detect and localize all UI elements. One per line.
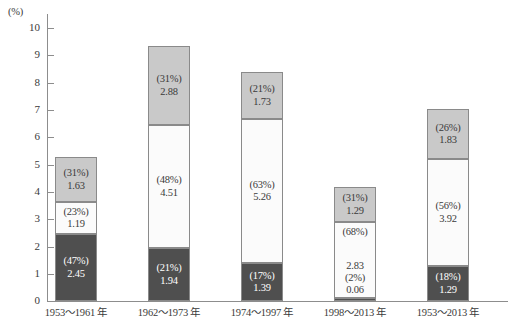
bar-3-middle-segment[interactable]: (63%) 5.26 <box>241 119 283 263</box>
bar-4-top-percent: (31%) <box>342 192 367 205</box>
bar-4-middle-segment[interactable]: (68%) 2.83 <box>334 222 376 298</box>
bar-2-middle-percent: (48%) <box>156 174 181 187</box>
y-tick-label-2: 2 <box>12 241 40 252</box>
y-tick-9 <box>48 55 54 56</box>
y-axis-unit-label: (%) <box>8 6 23 17</box>
bar-2-bottom-segment[interactable]: (21%) 1.94 <box>148 248 190 301</box>
bar-5-top-percent: (26%) <box>435 122 460 135</box>
y-tick-label-9: 9 <box>12 49 40 60</box>
bar-4-middle-percent: (68%) <box>342 226 367 239</box>
y-tick-6 <box>48 137 54 138</box>
bar-1-bottom-value: 2.45 <box>67 268 85 281</box>
y-tick-label-0: 0 <box>12 295 40 306</box>
y-tick-1 <box>48 274 54 275</box>
bar-1-bottom-segment[interactable]: (47%) 2.45 <box>55 234 97 301</box>
bar-5-bottom-segment[interactable]: (18%) 1.29 <box>427 266 469 301</box>
y-tick-label-8: 8 <box>12 77 40 88</box>
bar-1-middle-segment[interactable]: (23%) 1.19 <box>55 202 97 234</box>
bar-3-top-value: 1.73 <box>253 96 271 109</box>
bar-2-bottom-percent: (21%) <box>156 262 181 275</box>
bar-1974-1997[interactable]: (17%) 1.39 (63%) 5.26 (21%) 1.73 <box>241 72 283 301</box>
y-tick-8 <box>48 83 54 84</box>
bar-1998-2013[interactable]: (68%) 2.83 (31%) 1.29 (2%) 0.06 <box>334 187 376 301</box>
bar-3-bottom-segment[interactable]: (17%) 1.39 <box>241 263 283 301</box>
bar-5-bottom-value: 1.29 <box>439 284 457 297</box>
y-tick-label-5: 5 <box>12 159 40 170</box>
bar-4-bottom-segment[interactable] <box>334 298 376 301</box>
y-tick-label-3: 3 <box>12 213 40 224</box>
y-tick-4 <box>48 192 54 193</box>
bar-4-top-segment[interactable]: (31%) 1.29 <box>334 187 376 222</box>
bar-3-bottom-value: 1.39 <box>253 282 271 295</box>
y-tick-label-7: 7 <box>12 104 40 115</box>
x-axis-line <box>47 301 508 302</box>
bar-5-bottom-percent: (18%) <box>435 271 460 284</box>
bar-4-top-value: 1.29 <box>346 205 364 218</box>
y-tick-label-4: 4 <box>12 186 40 197</box>
bar-1-middle-value: 1.19 <box>67 218 85 231</box>
bar-3-top-percent: (21%) <box>249 83 274 96</box>
bar-1953-2013[interactable]: (18%) 1.29 (56%) 3.92 (26%) 1.83 <box>427 109 469 301</box>
bar-5-top-value: 1.83 <box>439 134 457 147</box>
bar-2-top-segment[interactable]: (31%) 2.88 <box>148 46 190 125</box>
y-tick-7 <box>48 110 54 111</box>
bar-4-middle-value: 2.83 <box>346 260 364 273</box>
y-tick-10 <box>48 28 54 29</box>
y-tick-label-10: 10 <box>12 22 40 33</box>
bar-1-top-segment[interactable]: (31%) 1.63 <box>55 157 97 202</box>
stacked-bar-chart: (%) 10 9 8 7 6 5 4 3 2 1 0 (47%) 2.45 (2… <box>0 0 514 330</box>
bar-2-bottom-value: 1.94 <box>160 275 178 288</box>
bar-2-top-percent: (31%) <box>156 73 181 86</box>
bar-1-bottom-percent: (47%) <box>63 255 88 268</box>
y-tick-2 <box>48 247 54 248</box>
bar-3-middle-percent: (63%) <box>249 179 274 192</box>
y-tick-label-1: 1 <box>12 268 40 279</box>
bar-5-top-segment[interactable]: (26%) 1.83 <box>427 109 469 159</box>
y-tick-3 <box>48 219 54 220</box>
bar-5-middle-percent: (56%) <box>435 200 460 213</box>
y-axis-line <box>47 14 48 302</box>
bar-5-middle-value: 3.92 <box>439 213 457 226</box>
bar-3-middle-value: 5.26 <box>253 191 271 204</box>
bar-2-middle-segment[interactable]: (48%) 4.51 <box>148 125 190 248</box>
bar-1-top-percent: (31%) <box>63 167 88 180</box>
bar-2-top-value: 2.88 <box>160 86 178 99</box>
bar-5-middle-segment[interactable]: (56%) 3.92 <box>427 159 469 266</box>
bar-1-middle-percent: (23%) <box>63 206 88 219</box>
bar-2-middle-value: 4.51 <box>160 187 178 200</box>
bar-3-bottom-percent: (17%) <box>249 270 274 283</box>
bar-1-top-value: 1.63 <box>67 180 85 193</box>
bar-3-top-segment[interactable]: (21%) 1.73 <box>241 72 283 119</box>
bar-1953-1961[interactable]: (47%) 2.45 (23%) 1.19 (31%) 1.63 <box>55 157 97 301</box>
bar-1962-1973[interactable]: (21%) 1.94 (48%) 4.51 (31%) 2.88 <box>148 46 190 301</box>
x-category-label-5: 1953〜2013 年 <box>392 306 504 319</box>
y-tick-label-6: 6 <box>12 131 40 142</box>
y-tick-5 <box>48 165 54 166</box>
